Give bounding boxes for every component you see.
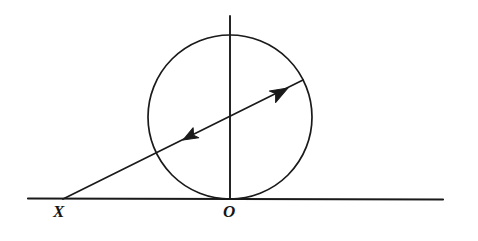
figure-drawing-surface (0, 0, 478, 241)
geometry-figure: X O (0, 0, 478, 241)
arrowhead-up-right-icon (269, 83, 291, 103)
point-label-o: O (223, 203, 235, 220)
arrowhead-down-left-icon (180, 128, 199, 145)
point-label-x: X (53, 203, 64, 220)
